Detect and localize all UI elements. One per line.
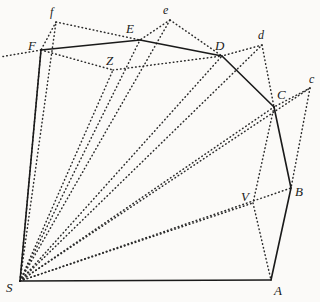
point-label-D: D <box>215 39 224 52</box>
chord-e-E <box>140 20 170 40</box>
ray-S-c <box>20 88 310 281</box>
point-label-C: C <box>277 88 286 101</box>
ray-S-f <box>20 22 56 281</box>
ray-S-e <box>20 20 170 281</box>
figure-canvas <box>0 0 320 302</box>
point-label-E: E <box>126 22 134 35</box>
point-label-e: e <box>163 4 168 16</box>
point-label-f: f <box>50 6 53 18</box>
point-label-d: d <box>258 29 264 41</box>
edge-S-A <box>20 280 271 281</box>
edge-B-C <box>274 107 291 188</box>
chord-c-B <box>291 88 310 188</box>
point-label-B: B <box>295 185 303 198</box>
edge-D-E <box>140 40 222 56</box>
point-label-A: A <box>274 284 282 297</box>
ray-S-V <box>20 203 253 281</box>
chord-d-D <box>222 45 262 56</box>
edge-E-F <box>41 40 140 50</box>
ray-S-d <box>20 45 262 281</box>
solid-lines-group <box>20 40 291 281</box>
chord-V-A <box>253 203 271 280</box>
ray-S-B <box>20 188 291 281</box>
point-label-S: S <box>6 281 13 294</box>
point-label-Z: Z <box>106 54 113 67</box>
dotted-lines-group <box>0 20 310 281</box>
point-label-F: F <box>28 39 36 52</box>
edge-A-B <box>271 188 291 280</box>
chord-C-V <box>253 107 274 203</box>
geometry-figure: fFEeZDdCcVBSA <box>0 0 320 302</box>
point-label-V: V <box>241 190 249 203</box>
chord-F-Z <box>41 50 113 70</box>
point-label-c: c <box>309 73 314 85</box>
